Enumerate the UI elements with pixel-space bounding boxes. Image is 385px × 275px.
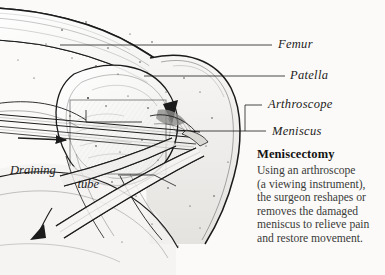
caption-line: meniscus to relieve pain xyxy=(257,218,383,232)
label-draining-tube-line2: tube xyxy=(10,177,115,191)
caption-block: Meniscectomy Using an arthroscope (a vie… xyxy=(257,147,383,246)
label-draining-tube: Draining tube xyxy=(10,163,115,191)
caption-line: the surgeon reshapes or xyxy=(257,191,383,205)
caption-line: (a viewing instrument), xyxy=(257,178,383,192)
caption-heading: Meniscectomy xyxy=(257,147,383,162)
caption-line: removes the damaged xyxy=(257,205,383,219)
label-femur: Femur xyxy=(278,37,313,52)
label-arthroscope: Arthroscope xyxy=(268,97,333,112)
label-meniscus: Meniscus xyxy=(272,124,322,139)
meniscectomy-figure: Femur Patella Arthroscope Meniscus Drain… xyxy=(0,0,385,275)
label-draining-tube-line1: Draining xyxy=(10,163,56,177)
label-patella: Patella xyxy=(290,68,328,83)
caption-line: Using an arthroscope xyxy=(257,164,383,178)
caption-line: and restore movement. xyxy=(257,232,383,246)
